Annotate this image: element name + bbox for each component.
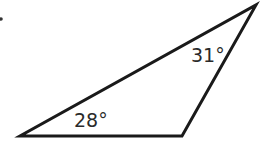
angle-label-left: 28° (74, 111, 108, 130)
triangle-figure (0, 0, 271, 153)
triangle (20, 5, 256, 136)
stray-dot (0, 17, 3, 21)
angle-label-top: 31° (191, 46, 225, 65)
